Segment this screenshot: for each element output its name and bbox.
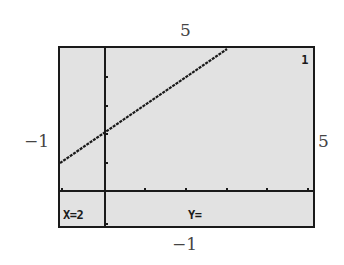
ymin-label: −1 <box>172 236 197 253</box>
graph-area <box>60 48 313 226</box>
ymax-label: 5 <box>180 22 191 39</box>
graph-number-indicator: 1 <box>301 54 308 66</box>
xmax-label: 5 <box>318 133 329 150</box>
calculator-screen: 1 X=2 Y= <box>58 46 315 228</box>
function-plot <box>60 49 227 163</box>
trace-y-readout: Y= <box>188 209 201 221</box>
trace-x-readout: X=2 <box>63 209 83 221</box>
xmin-label: −1 <box>24 133 49 150</box>
